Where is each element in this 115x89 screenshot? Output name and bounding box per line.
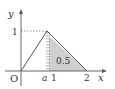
- x-tick-2: 2: [84, 73, 90, 83]
- x-axis-label: x: [98, 72, 104, 83]
- diagram-canvas: y x O 1 a 1 2 0.5: [0, 0, 115, 89]
- y-tick-1: 1: [12, 27, 18, 37]
- y-axis-arrow-icon: [19, 9, 23, 14]
- x-tick-a: a: [42, 73, 47, 83]
- origin-label: O: [10, 73, 18, 84]
- shaded-area-label: 0.5: [56, 56, 71, 66]
- x-tick-1: 1: [51, 73, 57, 83]
- y-axis-label: y: [7, 8, 14, 19]
